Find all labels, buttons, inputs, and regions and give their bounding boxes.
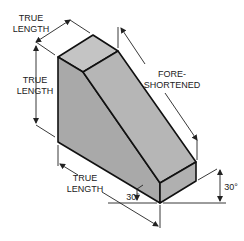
label-angle-right: 30° <box>224 182 238 192</box>
label-foreshortened-line1: FORE- <box>158 69 186 79</box>
label-left-true-length-line1: TRUE <box>23 75 48 85</box>
label-angle-left: 30° <box>126 192 140 202</box>
label-top-true-length-line2: LENGTH <box>13 24 50 34</box>
label-bottom-true-length-line1: TRUE <box>73 173 98 183</box>
label-left-true-length-line2: LENGTH <box>17 86 54 96</box>
label-bottom-true-length-line2: LENGTH <box>67 184 104 194</box>
label-top-true-length-line1: TRUE <box>19 13 44 23</box>
label-foreshortened-line2: SHORTENED <box>144 80 201 90</box>
isometric-diagram: TRUE LENGTH TRUE LENGTH TRUE LENGTH FORE… <box>0 0 244 241</box>
